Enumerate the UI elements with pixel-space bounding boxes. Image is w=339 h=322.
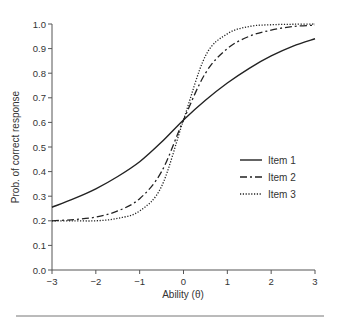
y-tick-label: 0.9 [33, 43, 46, 54]
y-tick-label: 0.0 [33, 265, 46, 276]
y-axis-label: Prob. of correct response [10, 90, 21, 203]
x-tick-label: −3 [47, 276, 58, 287]
y-tick-label: 0.1 [33, 240, 46, 251]
y-tick-label: 0.5 [33, 142, 46, 153]
x-axis-label: Ability (θ) [162, 289, 204, 300]
y-tick-label: 0.2 [33, 215, 46, 226]
y-ticks: 0.00.10.20.30.40.50.60.70.80.91.0 [33, 19, 52, 276]
axes: 0.00.10.20.30.40.50.60.70.80.91.0 −3−2−1… [33, 19, 318, 288]
x-tick-label: 2 [269, 276, 274, 287]
x-ticks: −3−2−10123 [47, 270, 318, 287]
y-tick-label: 0.7 [33, 92, 46, 103]
y-tick-label: 0.6 [33, 117, 46, 128]
y-tick-label: 0.8 [33, 68, 46, 79]
legend-item-1: Item 1 [240, 155, 296, 166]
x-tick-label: 3 [312, 276, 317, 287]
legend-item-3: Item 3 [240, 189, 296, 200]
legend-label: Item 1 [268, 155, 296, 166]
legend: Item 1Item 2Item 3 [240, 155, 296, 200]
x-tick-label: 0 [181, 276, 186, 287]
x-tick-label: −1 [134, 276, 145, 287]
y-tick-label: 1.0 [33, 19, 46, 30]
item-characteristic-curves-chart: 0.00.10.20.30.40.50.60.70.80.91.0 −3−2−1… [0, 0, 339, 322]
y-tick-label: 0.3 [33, 191, 46, 202]
x-tick-label: −2 [90, 276, 101, 287]
x-tick-label: 1 [225, 276, 230, 287]
legend-item-2: Item 2 [240, 172, 296, 183]
y-tick-label: 0.4 [33, 166, 46, 177]
legend-label: Item 3 [268, 189, 296, 200]
legend-label: Item 2 [268, 172, 296, 183]
